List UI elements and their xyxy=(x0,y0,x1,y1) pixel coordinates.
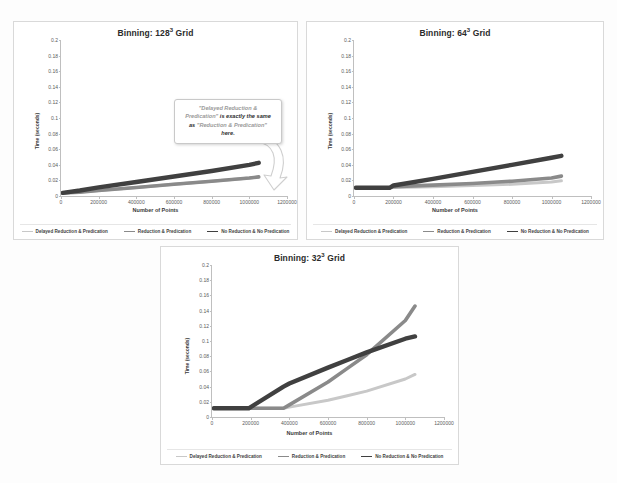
y-tick-label: 0.14 xyxy=(199,308,209,314)
x-axis-title-128: Number of Points xyxy=(14,207,297,213)
legend-swatch-delayed-icon xyxy=(321,231,332,232)
x-axis-title-32: Number of Points xyxy=(161,430,458,436)
x-tick-label: 200000 xyxy=(385,199,402,205)
legend-item-none-64: No Reduction & No Predication xyxy=(507,229,589,234)
y-tick-mark xyxy=(59,87,61,88)
chart-title-64-prefix: Binning: 64 xyxy=(419,28,466,38)
y-tick-mark xyxy=(352,87,354,88)
y-tick-mark xyxy=(59,180,61,181)
y-tick-label: 0.06 xyxy=(48,146,58,152)
chart-title-32-prefix: Binning: 32 xyxy=(274,253,321,263)
x-tick-label: 400000 xyxy=(128,199,145,205)
legend-swatch-none-icon xyxy=(207,231,218,232)
series-line xyxy=(214,306,415,408)
x-tick-mark xyxy=(249,196,250,199)
y-tick-mark xyxy=(210,371,212,372)
y-tick-mark xyxy=(210,402,212,403)
x-tick-mark xyxy=(136,196,137,199)
legend-label-delayed: Delayed Reduction & Predication xyxy=(190,454,262,459)
legend-label-reduction: Reduction & Predication xyxy=(437,229,490,234)
x-tick-label: 1000000 xyxy=(542,199,561,205)
y-tick-label: 0.08 xyxy=(341,131,351,137)
x-tick-mark xyxy=(433,196,434,199)
y-tick-label: 0.02 xyxy=(48,177,58,183)
x-tick-label: 1200000 xyxy=(581,199,600,205)
y-tick-label: 0.14 xyxy=(341,84,351,90)
y-tick-mark xyxy=(59,40,61,41)
y-tick-label: 0.14 xyxy=(48,84,58,90)
y-tick-mark xyxy=(210,295,212,296)
x-axis-title-64: Number of Points xyxy=(307,207,603,213)
chart-title-128-prefix: Binning: 128 xyxy=(118,28,170,38)
y-tick-mark xyxy=(59,134,61,135)
legend-item-reduction-32: Reduction & Predication xyxy=(278,454,345,459)
y-tick-mark xyxy=(59,149,61,150)
y-tick-mark xyxy=(352,134,354,135)
series-line xyxy=(63,163,259,193)
y-tick-mark xyxy=(210,326,212,327)
legend-label-none: No Reduction & No Predication xyxy=(221,229,289,234)
y-tick-label: 0.18 xyxy=(48,53,58,59)
x-tick-mark xyxy=(289,417,290,420)
y-tick-label: 0 xyxy=(348,193,351,199)
chart-card-64: Binning: 643 Grid Time (seconds) 00.020.… xyxy=(306,21,604,240)
x-tick-label: 1000000 xyxy=(396,420,415,426)
y-tick-label: 0.04 xyxy=(199,384,209,390)
x-tick-label: 0 xyxy=(60,199,63,205)
callout-line3-lead: as xyxy=(189,122,197,128)
y-tick-label: 0.04 xyxy=(48,162,58,168)
y-tick-label: 0.16 xyxy=(48,68,58,74)
x-tick-label: 0 xyxy=(211,420,214,426)
x-tick-mark xyxy=(393,196,394,199)
x-tick-label: 0 xyxy=(353,199,356,205)
x-tick-label: 600000 xyxy=(464,199,481,205)
x-tick-mark xyxy=(61,196,62,199)
y-tick-label: 0.02 xyxy=(199,399,209,405)
legend-32: Delayed Reduction & Predication Reductio… xyxy=(167,449,452,459)
legend-item-reduction-64: Reduction & Predication xyxy=(423,229,490,234)
y-tick-mark xyxy=(352,149,354,150)
y-axis-title-32: Time (seconds) xyxy=(184,337,190,374)
y-tick-mark xyxy=(352,165,354,166)
callout-line2-rest: is exactly the same xyxy=(218,113,271,119)
x-tick-label: 1000000 xyxy=(240,199,259,205)
y-tick-label: 0.1 xyxy=(344,115,351,121)
x-tick-mark xyxy=(354,196,355,199)
plot-lines-32 xyxy=(212,265,444,417)
y-axis-title-64: Time (seconds) xyxy=(327,112,333,149)
legend-item-delayed-32: Delayed Reduction & Predication xyxy=(176,454,262,459)
callout-line2-faded: Predication" xyxy=(185,113,218,119)
plot-lines-64 xyxy=(354,40,591,196)
legend-label-reduction: Reduction & Predication xyxy=(292,454,345,459)
y-tick-label: 0 xyxy=(206,414,209,420)
y-tick-mark xyxy=(210,341,212,342)
legend-item-delayed-128: Delayed Reduction & Predication xyxy=(22,229,108,234)
x-tick-mark xyxy=(367,417,368,420)
x-tick-mark xyxy=(552,196,553,199)
legend-64: Delayed Reduction & Predication Reductio… xyxy=(313,224,597,234)
y-tick-label: 0.12 xyxy=(199,323,209,329)
legend-label-none: No Reduction & No Predication xyxy=(521,229,589,234)
legend-label-delayed: Delayed Reduction & Predication xyxy=(36,229,108,234)
y-tick-mark xyxy=(210,387,212,388)
callout-line1: "Delayed Reduction & xyxy=(199,105,258,111)
y-tick-mark xyxy=(352,40,354,41)
y-tick-label: 0.2 xyxy=(344,37,351,43)
callout-note: "Delayed Reduction & Predication" is exa… xyxy=(174,99,282,144)
legend-swatch-reduction-icon xyxy=(278,456,289,457)
y-tick-label: 0 xyxy=(55,193,58,199)
y-tick-label: 0.2 xyxy=(202,262,209,268)
y-tick-mark xyxy=(352,180,354,181)
chart-title-64: Binning: 643 Grid xyxy=(307,27,603,38)
x-tick-mark xyxy=(251,417,252,420)
chart-title-64-suffix: Grid xyxy=(470,28,490,38)
y-tick-mark xyxy=(352,118,354,119)
x-tick-mark xyxy=(444,417,445,420)
y-tick-label: 0.02 xyxy=(341,177,351,183)
chart-card-32: Binning: 323 Grid Time (seconds) 00.020.… xyxy=(160,246,459,465)
x-tick-label: 200000 xyxy=(242,420,259,426)
x-tick-mark xyxy=(328,417,329,420)
legend-swatch-delayed-icon xyxy=(176,456,187,457)
x-tick-mark xyxy=(473,196,474,199)
legend-swatch-reduction-icon xyxy=(423,231,434,232)
